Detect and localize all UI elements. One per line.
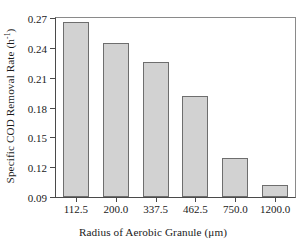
x-axis-tick-label: 462.5 [183,203,208,215]
bar-slot [255,18,295,197]
y-axis-title-wrapper: Specific COD Removal Rate (h-1) [0,0,20,212]
y-axis-tick-label: 0.18 [28,103,47,115]
bar [63,22,89,197]
y-axis-tick-label: 0.27 [28,13,47,25]
y-axis-title-text: Specific COD Removal Rate (h [4,39,16,183]
y-axis-tick-label: 0.24 [28,43,47,55]
y-axis-tick: 0.09 [50,197,56,198]
bar-slot [175,18,215,197]
y-axis-title-superscript: -1 [2,32,11,39]
bar [182,96,208,197]
bar-slot [136,18,176,197]
x-axis-tick [195,197,196,202]
bar [222,158,248,197]
bar-slot [96,18,136,197]
x-axis-tick [275,197,276,202]
bar-series [56,18,295,197]
x-axis-title: Radius of Aerobic Granule (μm) [0,226,306,238]
chart-figure: Specific COD Removal Rate (h-1) 0.270.24… [0,0,306,248]
bar [262,185,288,197]
y-axis-title: Specific COD Removal Rate (h-1) [4,29,16,184]
bar [143,62,169,197]
plot-area: 0.270.240.210.180.150.120.09 112.5200.03… [55,17,296,198]
x-axis-tick-label: 1200.0 [260,203,290,215]
x-axis-tick-label: 200.0 [103,203,128,215]
x-axis-tick-label: 337.5 [143,203,168,215]
bar-slot [56,18,96,197]
y-axis-tick-label: 0.21 [28,73,47,85]
x-axis-tick [76,197,77,202]
x-axis-tick [116,197,117,202]
bar [103,43,129,197]
y-axis-title-tail: ) [4,29,16,33]
x-axis-tick [235,197,236,202]
y-axis-tick-label: 0.09 [28,192,47,204]
x-axis-tick [156,197,157,202]
x-axis-tick-label: 750.0 [223,203,248,215]
y-axis-tick-label: 0.12 [28,162,47,174]
bar-slot [215,18,255,197]
y-axis-tick-label: 0.15 [28,132,47,144]
x-axis-tick-label: 112.5 [64,203,88,215]
